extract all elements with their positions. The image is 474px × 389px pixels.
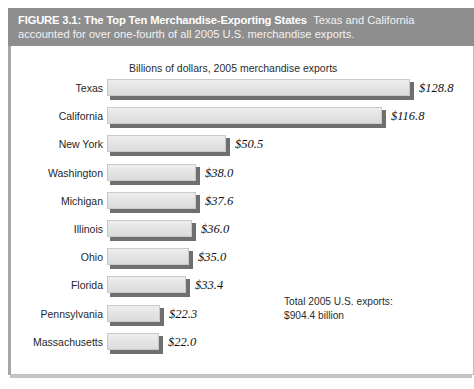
bar [107,276,190,298]
bar-category-label: Illinois [0,223,103,235]
bar-category-label: New York [0,138,103,150]
bar-shadow [110,293,189,297]
bar-shadow-right [189,251,193,269]
bar-shadow-right [192,223,196,241]
bar-fill [107,220,192,237]
bar-fill [107,276,186,293]
bar-row: California$116.8 [11,107,474,129]
bar-fill [107,192,196,209]
bar-category-label: Florida [0,279,103,291]
bar-fill [107,135,226,152]
bar-shadow-right [410,82,414,100]
bar-shadow [110,265,192,269]
bar-category-label: Washington [0,167,103,179]
bar-shadow [110,350,162,354]
bar-value-label: $37.6 [205,194,233,209]
bar-shadow [110,322,163,326]
bar-shadow-right [196,195,200,213]
bar-fill [107,79,410,96]
bar-fill [107,305,160,322]
bar-shadow [110,181,199,185]
bar [107,333,163,355]
bar-category-label: Pennsylvania [0,308,103,320]
figure-header-line-1: FIGURE 3.1: The Top Ten Merchandise-Expo… [18,13,464,27]
bar-shadow-right [196,167,200,185]
total-exports-annotation: Total 2005 U.S. exports: $904.4 billion [284,295,393,322]
bar-row: Illinois$36.0 [11,220,474,242]
bar-fill [107,164,196,181]
bar [107,79,414,101]
bar-shadow-right [382,110,386,128]
bar-value-label: $33.4 [195,278,223,293]
bar-shadow [110,209,199,213]
bar-row: Ohio$35.0 [11,248,474,270]
chart-plot-area: Texas$128.8California$116.8New York$50.5… [11,46,474,375]
figure-number-label: FIGURE 3.1: [18,14,81,26]
bar-category-label: Michigan [0,195,103,207]
bar [107,135,230,157]
bar [107,220,196,242]
bar-category-label: Texas [0,82,103,94]
bar [107,192,200,214]
bar-category-label: California [0,110,103,122]
bar-shadow-right [226,138,230,156]
bar-shadow [110,152,229,156]
bar [107,248,193,270]
bar-shadow-right [186,279,190,297]
bar-shadow-right [160,308,164,326]
bar-value-label: $22.0 [168,335,196,350]
bar-row: Massachusetts$22.0 [11,333,474,355]
bar [107,305,164,327]
bar-row: Texas$128.8 [11,79,474,101]
figure-caption-line-2: accounted for over one-fourth of all 200… [18,27,464,42]
bar-fill [107,248,189,265]
total-exports-line-2: $904.4 billion [284,309,393,323]
bar-row: Florida$33.4 [11,276,474,298]
bar-row: Pennsylvania$22.3 [11,305,474,327]
source-note-strip [0,382,474,389]
figure-caption-lead: Texas and California [313,14,414,26]
bar-value-label: $36.0 [201,222,229,237]
bar-value-label: $38.0 [205,166,233,181]
bar-fill [107,333,159,350]
bar-shadow [110,96,413,100]
bar-category-label: Massachusetts [0,336,103,348]
bar-row: Michigan$37.6 [11,192,474,214]
bar-shadow-right [159,336,163,354]
panel-bottom-shadow [10,375,472,378]
bar-value-label: $35.0 [198,250,226,265]
bar-value-label: $22.3 [169,307,197,322]
bar-row: Washington$38.0 [11,164,474,186]
bar-value-label: $116.8 [391,109,424,124]
bar [107,164,200,186]
total-exports-line-1: Total 2005 U.S. exports: [284,295,393,309]
bar-shadow [110,124,385,128]
figure-header-band: FIGURE 3.1: The Top Ten Merchandise-Expo… [8,8,474,46]
bar-value-label: $50.5 [235,137,263,152]
bar-row: New York$50.5 [11,135,474,157]
bar-value-label: $128.8 [419,81,453,96]
bar [107,107,386,129]
bar-shadow [110,237,195,241]
bar-fill [107,107,382,124]
bar-category-label: Ohio [0,251,103,263]
chart-panel: Billions of dollars, 2005 merchandise ex… [8,46,474,375]
figure-container: FIGURE 3.1: The Top Ten Merchandise-Expo… [0,0,474,389]
